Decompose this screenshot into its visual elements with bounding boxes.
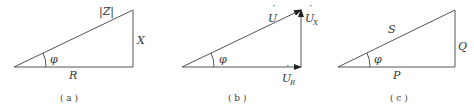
power-triangle: φ S Q P ( c ) bbox=[338, 10, 467, 103]
hyp-label: |Z| bbox=[99, 5, 114, 19]
angle-arc bbox=[367, 53, 370, 67]
angle-label: φ bbox=[50, 53, 58, 66]
caption-c: ( c ) bbox=[390, 93, 408, 103]
adj-label: P bbox=[392, 69, 401, 82]
angle-label: φ bbox=[219, 53, 227, 66]
ux-dot: ˙ bbox=[307, 4, 313, 17]
impedance-side bbox=[14, 10, 133, 67]
u-arrow bbox=[182, 10, 301, 67]
opp-label: X bbox=[136, 34, 146, 47]
ux-subscript: X bbox=[312, 19, 319, 27]
apparent-power-side bbox=[338, 10, 455, 67]
adj-label: R bbox=[68, 69, 77, 82]
angle-arc bbox=[43, 53, 46, 67]
u-dot: ˙ bbox=[270, 4, 276, 17]
angle-arc bbox=[211, 53, 214, 67]
caption-a: ( a ) bbox=[60, 93, 78, 103]
voltage-phasor-diagram: φ U ˙ U ˙ X U ˙ R ( b ) bbox=[182, 4, 319, 103]
hyp-label: S bbox=[388, 23, 396, 36]
ur-subscript: R bbox=[289, 79, 296, 87]
caption-b: ( b ) bbox=[228, 93, 247, 103]
angle-label: φ bbox=[374, 53, 382, 66]
ur-dot: ˙ bbox=[284, 64, 290, 77]
opp-label: Q bbox=[458, 40, 467, 53]
triangle-diagrams: φ |Z| X R ( a ) φ U ˙ U ˙ X U ˙ R ( b ) … bbox=[0, 0, 474, 111]
impedance-triangle: φ |Z| X R ( a ) bbox=[14, 5, 146, 103]
